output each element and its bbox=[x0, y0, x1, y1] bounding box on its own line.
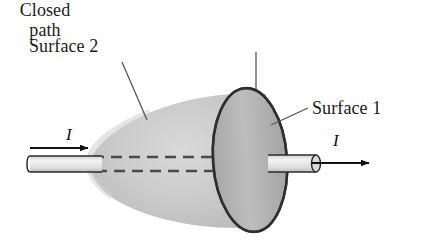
figure-canvas: Surface 2 Closed path Surface 1 I I bbox=[0, 0, 423, 247]
surface-2-label: Surface 2 bbox=[29, 36, 98, 56]
current-left-label: I bbox=[66, 126, 72, 144]
current-right-label: I bbox=[333, 132, 339, 150]
wire-left bbox=[27, 156, 102, 172]
surface-1-label: Surface 1 bbox=[312, 98, 381, 118]
leader-surface-2 bbox=[122, 62, 147, 120]
